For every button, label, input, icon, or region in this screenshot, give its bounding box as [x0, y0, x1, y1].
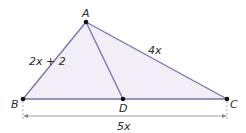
label-c: C [230, 98, 238, 111]
arrow-right-icon [222, 114, 227, 118]
point-c [225, 97, 230, 102]
label-side-bc: 5x [117, 120, 131, 133]
label-a: A [81, 7, 90, 20]
label-side-ab: 2x + 2 [29, 55, 66, 68]
point-a [84, 20, 89, 25]
point-d [121, 97, 126, 102]
arrow-left-icon [23, 114, 28, 118]
label-side-ac: 4x [148, 44, 162, 57]
label-d: D [119, 102, 127, 115]
triangle-diagram: A B D C 2x + 2 4x 5x [0, 0, 246, 133]
point-b [21, 97, 26, 102]
label-b: B [11, 98, 19, 111]
